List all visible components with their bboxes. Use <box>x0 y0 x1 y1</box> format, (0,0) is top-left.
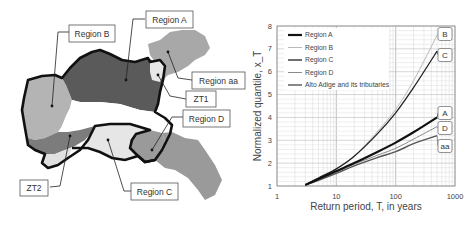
svg-text:Region C: Region C <box>137 187 172 197</box>
legend-label: Region A <box>305 31 333 39</box>
svg-text:ZT2: ZT2 <box>26 183 41 193</box>
y-axis-title: Normalized quantile, x_T <box>252 51 263 162</box>
y-tick-label: 3 <box>268 136 272 145</box>
label-region-a: Region A <box>146 11 193 28</box>
svg-text:Region aa: Region aa <box>199 76 238 86</box>
label-region-aa: Region aa <box>192 72 245 89</box>
svg-text:Region D: Region D <box>189 114 224 124</box>
label-zt2: ZT2 <box>20 180 48 196</box>
end-label-a: A <box>442 109 448 118</box>
x-axis-title: Return period, T, in years <box>310 201 422 212</box>
y-tick-label: 7 <box>268 44 272 53</box>
svg-text:Region A: Region A <box>152 15 187 25</box>
y-tick-label: 6 <box>268 67 272 76</box>
x-tick-label: 1000 <box>447 192 464 201</box>
y-axis-ticks: 12345678 <box>268 22 272 191</box>
series-line-aa <box>305 136 437 185</box>
label-zt1: ZT1 <box>186 91 216 107</box>
end-label-c: C <box>442 51 448 60</box>
svg-text:ZT1: ZT1 <box>193 94 208 104</box>
end-label-b: B <box>442 30 447 39</box>
label-region-c: Region C <box>131 183 178 200</box>
x-tick-label: 100 <box>389 192 402 201</box>
svg-text:Region B: Region B <box>75 29 110 39</box>
legend-label: Region B <box>305 44 333 52</box>
y-tick-label: 8 <box>268 22 272 31</box>
x-axis-ticks: 1101001000 <box>275 192 463 201</box>
end-label-d: D <box>442 124 448 133</box>
x-tick-label: 1 <box>275 192 279 201</box>
y-tick-label: 5 <box>268 90 272 99</box>
legend-label: Region D <box>305 69 333 77</box>
label-region-b: Region B <box>69 25 115 42</box>
x-tick-label: 10 <box>332 192 340 201</box>
chart-legend: Region ARegion BRegion CRegion DAlto Adi… <box>284 28 390 90</box>
y-tick-label: 2 <box>268 159 272 168</box>
end-label-aa: aa <box>441 142 450 151</box>
quantile-chart: 12345678 1101001000 Return period, T, in… <box>250 0 476 225</box>
region-map: Region B Region A Region aa ZT1 Region D… <box>0 0 250 225</box>
legend-label: Region C <box>305 56 333 64</box>
y-tick-label: 4 <box>268 113 272 122</box>
region-b-area <box>22 75 72 140</box>
label-region-d: Region D <box>183 110 230 127</box>
legend-label: Alto Adige and its tributaries <box>305 81 390 89</box>
y-tick-label: 1 <box>268 182 272 191</box>
